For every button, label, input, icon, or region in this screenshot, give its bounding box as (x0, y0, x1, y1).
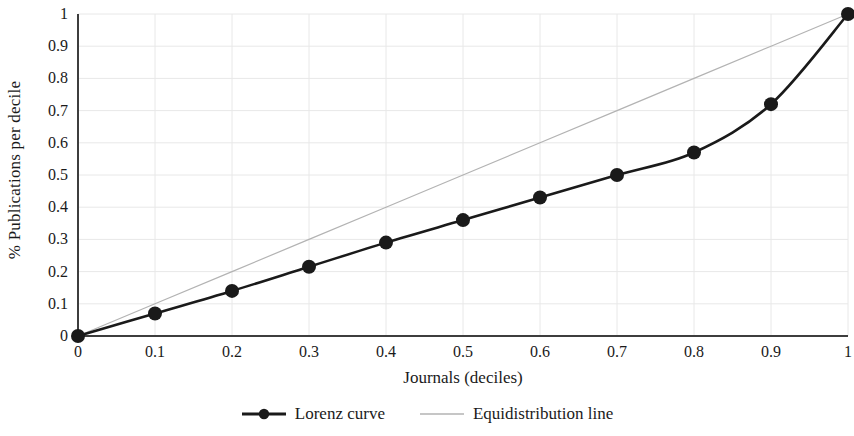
x-tick-label: 0.5 (441, 344, 485, 360)
data-point-marker (379, 236, 393, 250)
x-axis-title: Journals (deciles) (78, 368, 848, 388)
legend-line-icon (419, 406, 465, 422)
y-tick-label: 0 (26, 328, 68, 344)
x-tick-label: 0.3 (287, 344, 331, 360)
x-tick-label: 0.4 (364, 344, 408, 360)
data-point-marker (456, 213, 470, 227)
x-tick-label: 1 (826, 344, 854, 360)
y-tick-label: 0.5 (26, 167, 68, 183)
x-tick-label: 0.2 (210, 344, 254, 360)
x-tick-label: 0 (56, 344, 100, 360)
legend-item-equidistribution-line: Equidistribution line (419, 404, 613, 424)
x-tick-label: 0.6 (518, 344, 562, 360)
lorenz-curve-figure: % Publications per decile Journals (deci… (0, 0, 854, 436)
data-point-marker (71, 329, 85, 343)
data-point-marker (225, 284, 239, 298)
legend-item-lorenz-curve: Lorenz curve (241, 404, 385, 424)
y-tick-label: 0.8 (26, 70, 68, 86)
data-point-marker (764, 97, 778, 111)
data-point-marker (687, 145, 701, 159)
y-tick-label: 0.6 (26, 135, 68, 151)
legend-label-equidistribution-line: Equidistribution line (473, 404, 613, 424)
x-tick-label: 0.1 (133, 344, 177, 360)
data-point-marker (148, 306, 162, 320)
x-tick-label: 0.7 (595, 344, 639, 360)
data-point-marker (302, 260, 316, 274)
y-tick-label: 0.4 (26, 199, 68, 215)
y-tick-label: 0.9 (26, 38, 68, 54)
x-tick-label: 0.8 (672, 344, 716, 360)
x-axis-title-text: Journals (deciles) (403, 368, 522, 387)
y-tick-label: 0.1 (26, 296, 68, 312)
chart-legend: Lorenz curve Equidistribution line (0, 404, 854, 424)
y-tick-label: 0.2 (26, 264, 68, 280)
y-tick-label: 0.7 (26, 103, 68, 119)
y-tick-label: 1 (26, 6, 68, 22)
data-point-marker (610, 168, 624, 182)
data-point-marker (533, 191, 547, 205)
x-tick-label: 0.9 (749, 344, 793, 360)
y-tick-label: 0.3 (26, 231, 68, 247)
legend-line-marker-icon (241, 406, 287, 422)
legend-label-lorenz-curve: Lorenz curve (295, 404, 385, 424)
